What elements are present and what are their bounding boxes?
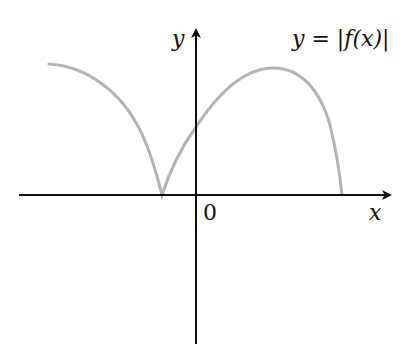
y-axis-label: y <box>172 26 184 51</box>
x-axis-label: x <box>369 200 381 225</box>
graph-svg <box>0 0 413 362</box>
curve-label: y = |f(x)| <box>292 26 389 51</box>
graph-figure: y x 0 y = |f(x)| <box>0 0 413 362</box>
origin-label: 0 <box>203 200 217 225</box>
